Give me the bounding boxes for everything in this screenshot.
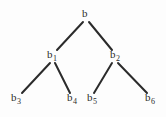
tree-node-root: b — [82, 8, 88, 22]
node-base-letter: b — [67, 91, 73, 103]
node-base-letter: b — [47, 48, 53, 60]
edge-group — [22, 22, 147, 93]
edge-root-b1 — [57, 22, 83, 50]
tree-node-b2: b2 — [110, 49, 120, 63]
node-base-letter: b — [82, 7, 88, 19]
node-subscript: 5 — [93, 97, 97, 106]
node-subscript: 6 — [151, 97, 155, 106]
node-subscript: 3 — [17, 97, 21, 106]
node-subscript: 4 — [73, 97, 77, 106]
tree-node-b4: b4 — [67, 92, 77, 106]
node-subscript: 2 — [116, 54, 120, 63]
node-base-letter: b — [110, 48, 116, 60]
edge-root-b2 — [89, 22, 112, 50]
tree-node-b6: b6 — [145, 92, 155, 106]
node-base-letter: b — [87, 91, 93, 103]
node-base-letter: b — [145, 91, 151, 103]
binary-tree-figure: b b1 b2 b3 b4 b5 b6 — [0, 0, 166, 117]
edge-b1-b3 — [22, 63, 50, 93]
node-base-letter: b — [11, 91, 17, 103]
tree-node-b5: b5 — [87, 92, 97, 106]
edge-b2-b5 — [94, 63, 112, 93]
tree-node-b3: b3 — [11, 92, 21, 106]
node-subscript: 1 — [53, 54, 57, 63]
tree-node-b1: b1 — [47, 49, 57, 63]
edge-b2-b6 — [118, 63, 147, 93]
edge-b1-b4 — [55, 63, 70, 93]
